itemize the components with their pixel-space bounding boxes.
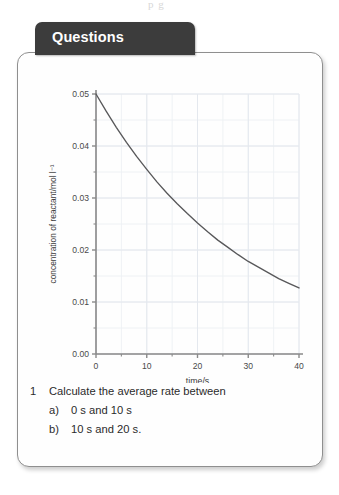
y-axis-tick-label: 0.03 — [72, 193, 89, 203]
y-axis-tick-label: 0.00 — [72, 349, 89, 359]
question-text: 10 s and 20 s. — [71, 423, 322, 435]
question-item-1: 1 Calculate the average rate between — [18, 385, 322, 397]
question-marker: a) — [18, 404, 71, 416]
questions-tab[interactable]: Questions — [35, 22, 195, 55]
y-axis-tick-label: 0.05 — [72, 89, 89, 99]
worksheet-page: p g Questions 0.000.010.020.030.040.0501… — [0, 0, 339, 495]
concentration-time-chart: 0.000.010.020.030.040.05010203040time/sc… — [18, 53, 322, 383]
scan-artifact-text: p g — [148, 0, 165, 10]
x-axis-tick-label: 40 — [294, 361, 304, 371]
y-axis-tick-label: 0.01 — [72, 297, 89, 307]
x-axis-tick-label: 10 — [142, 361, 152, 371]
question-text: 0 s and 10 s — [71, 404, 322, 416]
question-text: Calculate the average rate between — [49, 385, 322, 397]
y-axis-tick-label: 0.02 — [72, 245, 89, 255]
x-axis-tick-label: 0 — [94, 361, 99, 371]
y-axis-title: concentration of reactant/mol l⁻¹ — [48, 164, 58, 283]
x-axis-tick-label: 20 — [193, 361, 203, 371]
question-item-1b: b) 10 s and 20 s. — [18, 423, 322, 435]
questions-card: 0.000.010.020.030.040.05010203040time/sc… — [17, 52, 323, 467]
chart-svg: 0.000.010.020.030.040.05010203040time/sc… — [18, 53, 322, 383]
questions-list: 1 Calculate the average rate between a) … — [18, 385, 322, 442]
questions-tab-label: Questions — [52, 29, 124, 45]
question-item-1a: a) 0 s and 10 s — [18, 404, 322, 416]
x-axis-tick-label: 30 — [243, 361, 253, 371]
x-axis-title: time/s — [186, 376, 210, 383]
y-axis-tick-label: 0.04 — [72, 141, 89, 151]
question-marker: b) — [18, 423, 71, 435]
question-number: 1 — [18, 385, 49, 397]
